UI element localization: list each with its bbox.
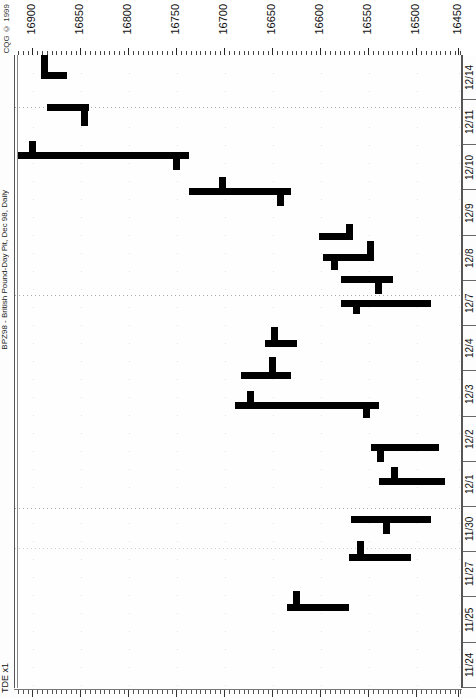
- axis-tick-minor: [397, 690, 398, 694]
- date-tick-label: 12/11: [463, 100, 476, 145]
- axis-tick-minor: [220, 690, 221, 694]
- chart-window: CQG © 1999 16900168501680016750167001665…: [0, 0, 476, 699]
- scale-tag: TDE x1: [1, 663, 10, 693]
- price-gridline: [177, 55, 178, 688]
- axis-tick-minor: [186, 690, 187, 694]
- axis-tick-minor: [450, 690, 451, 694]
- bar-close-tick: [367, 241, 374, 261]
- axis-tick-minor: [445, 690, 446, 694]
- axis-tick-minor: [311, 690, 312, 694]
- axis-tick-minor: [402, 690, 403, 694]
- axis-tick-minor: [196, 690, 197, 694]
- bottom-axis-ticks: [14, 690, 462, 697]
- axis-tick-minor: [152, 690, 153, 694]
- axis-tick-minor: [392, 690, 393, 694]
- axis-tick-minor: [383, 690, 384, 694]
- chart-plot-area[interactable]: [14, 55, 462, 688]
- date-tick-label: 12/3: [463, 372, 476, 417]
- axis-tick-minor: [287, 690, 288, 694]
- axis-tick-major: [368, 690, 369, 697]
- price-gridline: [459, 55, 460, 688]
- date-tick-label: 11/25: [463, 598, 476, 643]
- date-tick-label: 11/24: [463, 643, 476, 688]
- axis-tick-major: [416, 690, 417, 697]
- axis-tick-minor: [210, 690, 211, 694]
- bar-range-line: [341, 276, 393, 283]
- axis-tick-minor: [436, 690, 437, 694]
- axis-tick-minor: [114, 690, 115, 694]
- axis-tick-minor: [109, 690, 110, 694]
- axis-tick-minor: [244, 690, 245, 694]
- price-gridline: [225, 55, 226, 688]
- axis-tick-minor: [455, 690, 456, 694]
- price-tick-label: 16750: [170, 4, 181, 35]
- axis-tick-minor: [258, 690, 259, 694]
- axis-tick-minor: [162, 690, 163, 694]
- axis-tick-major: [272, 690, 273, 697]
- axis-tick-minor: [95, 690, 96, 694]
- bar-close-tick: [277, 188, 284, 206]
- bar-open-tick: [219, 177, 226, 195]
- axis-tick-major: [80, 690, 81, 697]
- chart-title: BPZ98 - British Pound-Day Pit, Dec 98, D…: [1, 190, 9, 350]
- axis-tick-major: [458, 690, 459, 697]
- axis-tick-minor: [133, 690, 134, 694]
- axis-tick-minor: [431, 690, 432, 694]
- axis-tick-minor: [124, 690, 125, 694]
- date-gridline: [15, 295, 461, 296]
- bar-open-tick: [357, 541, 364, 561]
- axis-tick-minor: [421, 690, 422, 694]
- axis-tick-minor: [23, 690, 24, 694]
- bar-open-tick: [375, 276, 382, 294]
- axis-tick-minor: [460, 690, 461, 694]
- axis-tick-minor: [344, 690, 345, 694]
- date-tick-label: 12/9: [463, 191, 476, 236]
- price-tick-label: 16650: [266, 4, 277, 35]
- bar-open-tick: [81, 104, 88, 126]
- axis-tick-minor: [172, 690, 173, 694]
- bar-open-tick: [331, 254, 338, 270]
- axis-tick-minor: [37, 690, 38, 694]
- axis-tick-minor: [42, 690, 43, 694]
- axis-tick-minor: [340, 690, 341, 694]
- date-tick-label: 12/2: [463, 417, 476, 462]
- axis-tick-minor: [18, 690, 19, 694]
- plot-left-border: [17, 55, 18, 688]
- axis-tick-minor: [239, 690, 240, 694]
- bar-range-line: [18, 152, 189, 159]
- bar-open-tick: [377, 444, 384, 462]
- axis-tick-minor: [282, 690, 283, 694]
- axis-tick-major: [176, 690, 177, 697]
- axis-tick-major: [32, 690, 33, 697]
- axis-tick-minor: [263, 690, 264, 694]
- axis-tick-minor: [205, 690, 206, 694]
- axis-tick-minor: [373, 690, 374, 694]
- date-axis: 12/1412/1112/1012/912/812/712/412/312/21…: [462, 55, 476, 688]
- axis-tick-minor: [167, 690, 168, 694]
- date-tick-label: 12/14: [463, 55, 476, 100]
- axis-tick-minor: [234, 690, 235, 694]
- price-tick-label: 16600: [314, 4, 325, 35]
- axis-tick-minor: [277, 690, 278, 694]
- axis-tick-minor: [100, 690, 101, 694]
- axis-tick-minor: [268, 690, 269, 694]
- axis-tick-minor: [306, 690, 307, 694]
- bar-open-tick: [41, 55, 48, 79]
- price-tick-label: 16700: [218, 4, 229, 35]
- axis-tick-minor: [71, 690, 72, 694]
- axis-tick-minor: [56, 690, 57, 694]
- axis-tick-major: [128, 690, 129, 697]
- axis-tick-minor: [292, 690, 293, 694]
- axis-tick-minor: [52, 690, 53, 694]
- axis-tick-major: [320, 690, 321, 697]
- date-tick-label: 12/7: [463, 281, 476, 326]
- axis-tick-minor: [412, 690, 413, 694]
- axis-tick-minor: [248, 690, 249, 694]
- axis-tick-minor: [364, 690, 365, 694]
- date-gridline: [15, 508, 461, 509]
- bar-open-tick: [29, 141, 36, 159]
- axis-tick-minor: [61, 690, 62, 694]
- bar-close-tick: [173, 152, 180, 170]
- axis-tick-minor: [296, 690, 297, 694]
- price-gridline: [81, 55, 82, 688]
